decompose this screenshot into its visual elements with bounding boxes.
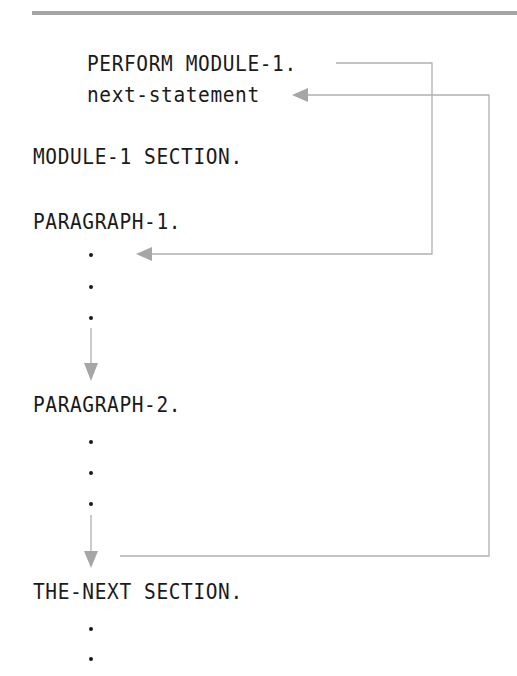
next-statement: next-statement xyxy=(87,82,260,109)
ellipsis-dot xyxy=(89,657,93,661)
arrowhead-left-icon xyxy=(136,247,152,261)
next-section-header: THE-NEXT SECTION. xyxy=(33,579,243,606)
ellipsis-dot xyxy=(89,316,93,320)
arrowhead-down-icon xyxy=(84,363,98,381)
perform-statement: PERFORM MODULE-1. xyxy=(87,51,297,78)
ellipsis-dot xyxy=(89,502,93,506)
arrowhead-left-icon xyxy=(292,88,308,102)
ellipsis-dot xyxy=(89,471,93,475)
ellipsis-dot xyxy=(89,627,93,631)
top-rule xyxy=(32,11,517,15)
ellipsis-dot xyxy=(89,440,93,444)
module-section-header: MODULE-1 SECTION. xyxy=(33,144,243,171)
arrowhead-down-icon xyxy=(84,551,98,568)
paragraph-2-header: PARAGRAPH-2. xyxy=(33,392,181,419)
ellipsis-dot xyxy=(89,285,93,289)
paragraph-1-header: PARAGRAPH-1. xyxy=(33,209,181,236)
ellipsis-dot xyxy=(89,253,93,257)
